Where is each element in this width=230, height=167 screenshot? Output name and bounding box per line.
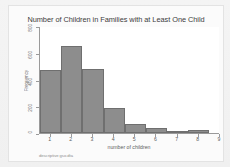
x-axis-tick-label: 3 [90, 137, 93, 142]
chart-title: Number of Children in Families with at L… [9, 15, 223, 24]
y-axis-tick-value: 400 [29, 78, 34, 86]
x-axis-tick-label: 5 [133, 137, 136, 142]
histogram-bar [146, 128, 167, 133]
dataset-caption: descriptive gso.dta [39, 153, 73, 158]
x-axis-tick-label: 1 [48, 137, 51, 142]
x-axis-tick-label: 6 [154, 137, 157, 142]
histogram-bar [125, 124, 146, 133]
y-axis-tick-value: 200 [29, 104, 34, 112]
graph-canvas: Number of Children in Families with at L… [8, 5, 224, 162]
x-axis-tick-label: 9 [218, 137, 221, 142]
screenshot-root: Number of Children in Families with at L… [0, 0, 230, 167]
histogram-bar [167, 131, 188, 133]
plot-area [39, 27, 219, 134]
x-axis-tick-label: 4 [112, 137, 115, 142]
histogram-bar [188, 130, 209, 133]
y-axis-tick-value: 600 [29, 51, 34, 59]
x-axis-tick-label: 2 [69, 137, 72, 142]
histogram-bar [40, 70, 61, 133]
bars-container [40, 27, 219, 133]
histogram-bar [104, 108, 125, 133]
x-axis-tick-label: 8 [196, 137, 199, 142]
histogram-bar [61, 46, 82, 133]
y-axis-tick-value: 0 [29, 131, 34, 134]
histogram-bar [82, 69, 103, 133]
x-axis-title: number of children [39, 144, 219, 150]
x-axis-tick-label: 7 [175, 137, 178, 142]
y-axis-tick-value: 800 [29, 24, 34, 32]
